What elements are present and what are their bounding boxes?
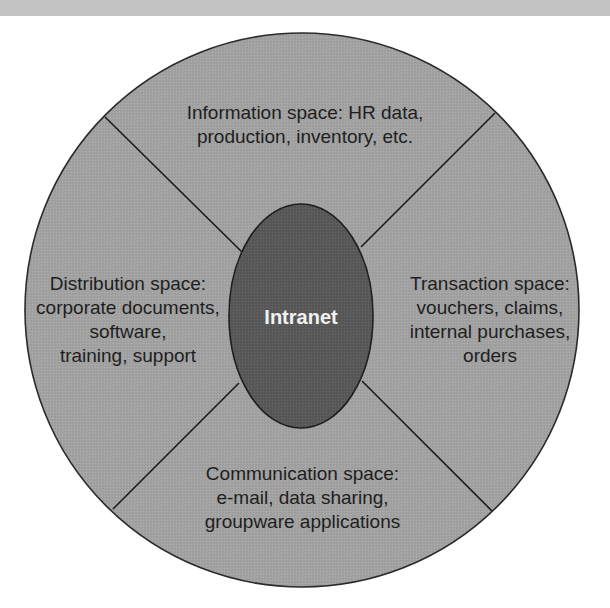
segment-distribution-line-3: software, xyxy=(18,320,238,344)
segment-transaction: Transaction space: vouchers, claims, int… xyxy=(385,272,595,368)
segment-information-line-1: Information space: HR data, xyxy=(160,101,450,125)
segment-transaction-line-4: orders xyxy=(385,344,595,368)
segment-transaction-line-2: vouchers, claims, xyxy=(385,296,595,320)
segment-communication-line-3: groupware applications xyxy=(180,510,425,534)
intranet-label: Intranet xyxy=(241,306,361,329)
segment-distribution-line-4: training, support xyxy=(18,344,238,368)
segment-distribution: Distribution space: corporate documents,… xyxy=(18,272,238,368)
segment-communication-line-1: Communication space: xyxy=(180,462,425,486)
segment-distribution-line-1: Distribution space: xyxy=(18,272,238,296)
segment-transaction-line-1: Transaction space: xyxy=(385,272,595,296)
segment-transaction-line-3: internal purchases, xyxy=(385,320,595,344)
segment-communication-line-2: e-mail, data sharing, xyxy=(180,486,425,510)
segment-distribution-line-2: corporate documents, xyxy=(18,296,238,320)
segment-communication: Communication space: e-mail, data sharin… xyxy=(180,462,425,534)
segment-information: Information space: HR data, production, … xyxy=(160,101,450,149)
segment-information-line-2: production, inventory, etc. xyxy=(160,125,450,149)
